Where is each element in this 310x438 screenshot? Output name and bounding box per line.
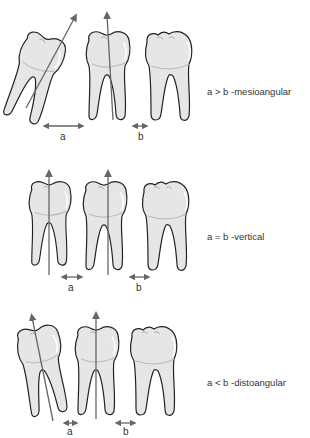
caption-vertical: a = b -vertical bbox=[207, 231, 264, 242]
second-molar bbox=[75, 327, 118, 415]
row-distoangular: a b a < b -distoangular bbox=[0, 295, 310, 438]
row-mesioangular: a b a > b -mesioangular bbox=[0, 0, 310, 145]
vertical-illustration bbox=[0, 145, 310, 295]
third-molar-tilted-mesial bbox=[0, 29, 68, 126]
label-a: a bbox=[68, 282, 74, 293]
label-b: b bbox=[123, 426, 129, 437]
first-molar bbox=[146, 32, 192, 121]
caption-distoangular: a < b -distoangular bbox=[207, 377, 286, 388]
distoangular-illustration bbox=[0, 295, 310, 438]
mesioangular-illustration bbox=[0, 0, 310, 145]
label-a: a bbox=[67, 426, 73, 437]
label-b: b bbox=[136, 282, 142, 293]
row-vertical: a b a = b -vertical bbox=[0, 145, 310, 295]
first-molar bbox=[143, 182, 189, 271]
label-a: a bbox=[60, 131, 66, 142]
second-molar bbox=[131, 327, 177, 416]
second-molar bbox=[83, 182, 126, 270]
label-b: b bbox=[138, 131, 144, 142]
caption-mesioangular: a > b -mesioangular bbox=[207, 86, 291, 97]
third-molar-vertical bbox=[29, 182, 71, 265]
